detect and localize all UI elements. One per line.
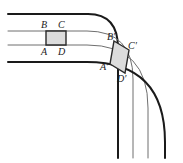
figure-container: B C A D B′ C′ A′ D′ bbox=[0, 0, 183, 163]
parallelogram-A-prime-B-prime-C-prime-D-prime bbox=[110, 41, 129, 73]
vertex-label-D-prime: D′ bbox=[117, 74, 126, 84]
vertex-label-A-prime: A′ bbox=[100, 62, 108, 72]
vertex-label-B-prime: B′ bbox=[107, 32, 115, 42]
vertex-label-B: B bbox=[41, 20, 47, 30]
vertex-label-D: D bbox=[58, 47, 65, 57]
lane-edge-outer-bottom bbox=[8, 62, 165, 158]
vertex-label-C-prime: C′ bbox=[128, 41, 137, 51]
square-ABCD bbox=[46, 31, 66, 45]
vertex-label-C: C bbox=[58, 20, 65, 30]
vertex-label-A: A bbox=[41, 47, 47, 57]
track-diagram-svg bbox=[0, 0, 183, 163]
